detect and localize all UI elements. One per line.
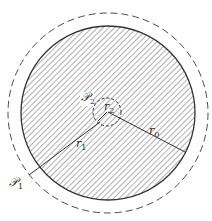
label-r1-sub: 1	[81, 143, 86, 152]
label-r2-sub: 2	[109, 106, 114, 115]
label-p1-sub: 1	[18, 182, 23, 191]
label-p2: 𝒫2	[81, 91, 95, 106]
label-p1-base: 𝒫	[9, 175, 18, 189]
label-p2-base: 𝒫	[81, 90, 90, 104]
label-r0-sub: 0	[154, 130, 159, 139]
label-r2: r2	[104, 101, 114, 115]
label-p1: 𝒫1	[9, 176, 23, 191]
label-r1: r1	[76, 138, 86, 152]
label-r0: r0	[149, 125, 159, 139]
label-p2-sub: 2	[90, 97, 95, 106]
